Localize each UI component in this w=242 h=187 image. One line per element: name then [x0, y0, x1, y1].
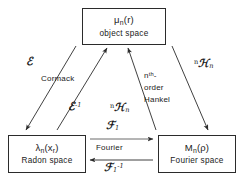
node-radon-space: λn(xr) Radon space — [8, 135, 86, 173]
hankel-name-line-1: nth- — [144, 70, 170, 82]
node-object-label: object space — [100, 29, 149, 39]
node-radon-label: Radon space — [22, 156, 73, 166]
edge-label-cormack-inverse-operator: ℰ-1 — [68, 100, 81, 113]
node-radon-symbol: λn(xr) — [35, 142, 58, 155]
edge-label-hankel-left-operator: nℋn — [110, 101, 130, 114]
transform-relationship-diagram: μn(r) object space λn(xr) Radon space Mn… — [0, 0, 242, 187]
arrow-radon-to-object — [57, 48, 107, 130]
edge-label-hankel-right-operator: nℋn — [194, 57, 214, 70]
node-fourier-label: Fourier space — [170, 156, 223, 166]
node-object-symbol: μn(r) — [114, 14, 134, 27]
node-object-space: μn(r) object space — [82, 8, 166, 45]
edge-label-cormack-operator: ℰ — [26, 55, 33, 68]
edge-label-cormack-name: Cormack — [41, 74, 74, 83]
node-fourier-symbol: Mn(ρ) — [185, 142, 209, 155]
node-fourier-space: Mn(ρ) Fourier space — [158, 135, 236, 173]
arrow-object-to-radon — [26, 46, 76, 130]
hankel-name-line-2: order — [144, 82, 170, 94]
hankel-name-line-3: Hankel — [144, 94, 170, 106]
edge-label-hankel-name: nth- order Hankel — [144, 70, 170, 105]
edge-label-fourier-inverse-operator: ℱ1-1 — [104, 161, 124, 174]
edge-label-fourier-name: Fourier — [96, 143, 123, 152]
edge-label-fourier-operator: ℱ1 — [106, 119, 119, 132]
